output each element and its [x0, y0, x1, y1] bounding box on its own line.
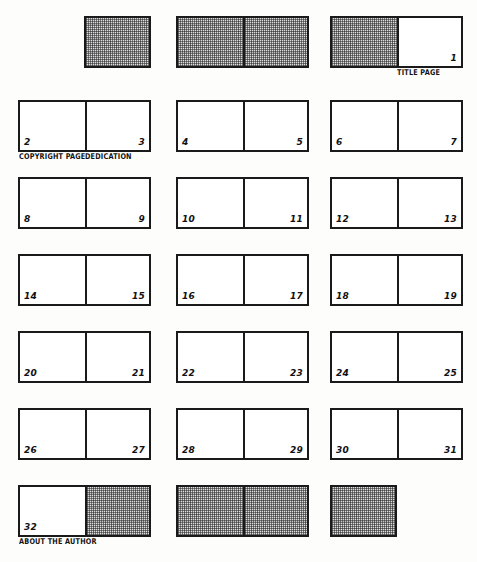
page-number: 2 [24, 138, 31, 147]
page-blank[interactable]: 2 [20, 102, 85, 150]
page-spread[interactable] [176, 16, 309, 68]
page-shaded[interactable] [178, 18, 243, 66]
page-spread[interactable]: 32 [18, 485, 151, 537]
spread-row: 202122232425 [0, 323, 477, 400]
page-caption: DEDICATION [85, 153, 132, 161]
spread-cell: 1TITLE PAGE [324, 8, 469, 85]
page-number: 25 [444, 369, 457, 378]
page-blank[interactable]: 26 [20, 410, 85, 458]
page-blank[interactable]: 8 [20, 179, 85, 227]
page-number: 5 [296, 138, 303, 147]
spread-cell: 3031 [324, 400, 469, 477]
page-caption: TITLE PAGE [397, 69, 440, 77]
book-map-sheet: 1TITLE PAGE23COPYRIGHT PAGEDEDICATION456… [0, 0, 477, 562]
spread-row: 141516171819 [0, 246, 477, 323]
page-shaded[interactable] [243, 487, 308, 535]
page-number: 6 [336, 138, 343, 147]
page-blank[interactable]: 3 [85, 102, 150, 150]
page-blank[interactable]: 19 [397, 256, 462, 304]
page-blank[interactable]: 17 [243, 256, 308, 304]
page-number: 1 [450, 54, 457, 63]
page-spread[interactable]: 2425 [330, 331, 463, 383]
spread-cell: 32ABOUT THE AUTHOR [12, 477, 157, 554]
page-blank[interactable]: 14 [20, 256, 85, 304]
page-shaded[interactable] [332, 18, 397, 66]
page-spread[interactable]: 2627 [18, 408, 151, 460]
page-blank[interactable]: 31 [397, 410, 462, 458]
page-spread[interactable]: 23 [18, 100, 151, 152]
page-spread[interactable]: 67 [330, 100, 463, 152]
page-spread[interactable]: 2829 [176, 408, 309, 460]
page-blank[interactable]: 10 [178, 179, 243, 227]
page-spread[interactable]: 1213 [330, 177, 463, 229]
spread-cell: 1819 [324, 246, 469, 323]
spread-row: 32ABOUT THE AUTHOR [0, 477, 477, 554]
page-blank[interactable]: 15 [85, 256, 150, 304]
page-spread[interactable] [176, 485, 309, 537]
page-blank[interactable]: 30 [332, 410, 397, 458]
spread-cell: 23COPYRIGHT PAGEDEDICATION [12, 92, 157, 169]
page-spread[interactable]: 45 [176, 100, 309, 152]
page-blank[interactable]: 21 [85, 333, 150, 381]
page-number: 8 [24, 215, 31, 224]
page-blank[interactable]: 20 [20, 333, 85, 381]
page-blank[interactable]: 27 [85, 410, 150, 458]
page-shaded[interactable] [85, 487, 150, 535]
page-number: 29 [290, 446, 303, 455]
page-number: 32 [24, 523, 37, 532]
spread-cell: 1213 [324, 169, 469, 246]
page-number: 31 [444, 446, 457, 455]
spread-cell: 2223 [170, 323, 315, 400]
page-spread[interactable]: 1819 [330, 254, 463, 306]
page-number: 13 [444, 215, 457, 224]
page-spread[interactable]: 89 [18, 177, 151, 229]
page-number: 21 [132, 369, 145, 378]
page-spread[interactable]: 3031 [330, 408, 463, 460]
page-blank[interactable]: 1 [397, 18, 462, 66]
page-spread[interactable]: 2021 [18, 331, 151, 383]
page-number: 3 [138, 138, 145, 147]
page-spread[interactable] [84, 16, 151, 68]
page-number: 27 [132, 446, 145, 455]
page-blank[interactable]: 16 [178, 256, 243, 304]
page-shaded[interactable] [178, 487, 243, 535]
page-spread[interactable]: 2223 [176, 331, 309, 383]
page-blank[interactable]: 29 [243, 410, 308, 458]
page-spread[interactable]: 1617 [176, 254, 309, 306]
page-blank[interactable]: 23 [243, 333, 308, 381]
page-blank[interactable]: 6 [332, 102, 397, 150]
page-blank[interactable]: 5 [243, 102, 308, 150]
page-shaded[interactable] [243, 18, 308, 66]
spread-cell: 89 [12, 169, 157, 246]
page-spread[interactable]: 1011 [176, 177, 309, 229]
page-blank[interactable]: 13 [397, 179, 462, 227]
page-spread[interactable]: 1415 [18, 254, 151, 306]
page-number: 30 [336, 446, 349, 455]
spread-cell: 2425 [324, 323, 469, 400]
page-spread[interactable] [330, 485, 397, 537]
page-number: 16 [182, 292, 195, 301]
page-number: 18 [336, 292, 349, 301]
page-spread[interactable]: 1 [330, 16, 463, 68]
page-blank[interactable]: 7 [397, 102, 462, 150]
page-number: 14 [24, 292, 37, 301]
page-blank[interactable]: 25 [397, 333, 462, 381]
page-blank[interactable]: 12 [332, 179, 397, 227]
page-shaded[interactable] [86, 18, 149, 66]
page-blank[interactable]: 22 [178, 333, 243, 381]
page-blank[interactable]: 9 [85, 179, 150, 227]
page-blank[interactable]: 28 [178, 410, 243, 458]
page-blank[interactable]: 32 [20, 487, 85, 535]
page-blank[interactable]: 24 [332, 333, 397, 381]
page-number: 10 [182, 215, 195, 224]
page-number: 22 [182, 369, 195, 378]
page-blank[interactable]: 11 [243, 179, 308, 227]
page-blank[interactable]: 18 [332, 256, 397, 304]
page-blank[interactable]: 4 [178, 102, 243, 150]
spread-row: 262728293031 [0, 400, 477, 477]
page-number: 7 [450, 138, 457, 147]
page-shaded[interactable] [332, 487, 395, 535]
spread-cell [170, 477, 315, 554]
spread-cell: 45 [170, 92, 315, 169]
spread-grid: 1TITLE PAGE23COPYRIGHT PAGEDEDICATION456… [0, 0, 477, 562]
